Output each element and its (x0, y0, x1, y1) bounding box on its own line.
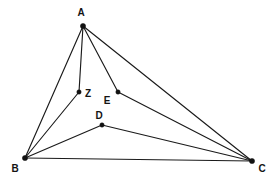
geometry-svg: ABCZED (0, 0, 277, 183)
vertex-label-d: D (95, 110, 102, 121)
vertex-label-e: E (104, 95, 111, 106)
vertex-point-a (80, 23, 85, 28)
vertex-label-c: C (258, 163, 265, 174)
vertex-label-z: Z (85, 88, 91, 99)
vertex-point-z (77, 90, 81, 94)
segment-b-c (25, 158, 252, 161)
segment-a-z (79, 26, 83, 92)
vertex-label-a: A (77, 7, 84, 18)
segment-b-z (25, 92, 79, 158)
segment-a-b (25, 26, 83, 158)
segment-a-e (83, 26, 118, 92)
vertex-point-d (100, 123, 104, 127)
vertex-point-c (249, 158, 254, 163)
vertex-dots-group (22, 23, 254, 163)
vertex-label-b: B (11, 163, 18, 174)
vertex-point-b (22, 155, 27, 160)
segment-b-d (25, 125, 102, 158)
segment-e-c (118, 92, 252, 161)
vertex-point-e (116, 90, 120, 94)
segments-group (25, 26, 252, 161)
geometry-figure-canvas: ABCZED (0, 0, 277, 183)
